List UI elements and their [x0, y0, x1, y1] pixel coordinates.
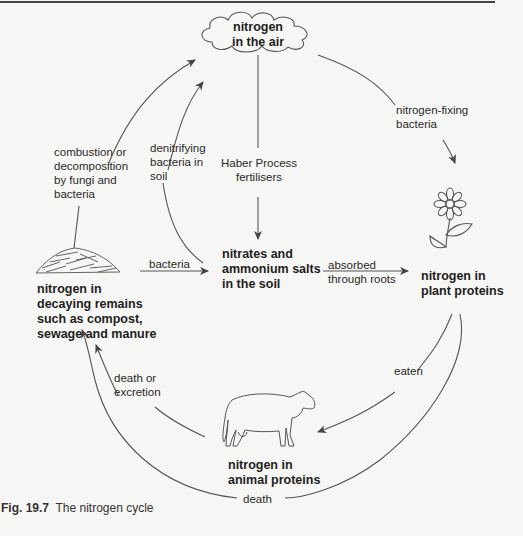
edge-absorbed-label: absorbed through roots [328, 258, 396, 286]
edge-fixing-label: nitrogen-fixing bacteria [396, 103, 468, 131]
edge-label-line: denitrifying [150, 141, 206, 155]
edge-label-line: fertilisers [218, 170, 300, 184]
edge-combustion-label: combustion or decomposition by fungi and… [54, 145, 128, 201]
edge-label-line: excretion [114, 385, 161, 399]
node-line: in the soil [222, 277, 321, 292]
edge-label-line: by fungi and [54, 173, 128, 187]
edge-label-line: Haber Process [218, 156, 300, 170]
edge-label-line: through roots [328, 272, 396, 286]
edge-label-line: combustion or [54, 145, 128, 159]
node-decaying-remains: nitrogen in decaying remains such as com… [37, 282, 157, 342]
edge-haber-label: Haber Process fertilisers [218, 156, 300, 184]
cow-icon [223, 391, 315, 446]
flower-icon [430, 188, 472, 248]
node-line: nitrogen in [421, 269, 504, 284]
node-animal: nitrogen in animal proteins [228, 458, 320, 488]
edge-label-line: bacteria [54, 187, 128, 201]
edge-denitrifying-label: denitrifying bacteria in soil [150, 141, 206, 183]
figure-caption: Fig. 19.7 The nitrogen cycle [1, 501, 154, 515]
node-line: nitrates and [222, 247, 321, 262]
edge-bacteria-label: bacteria [149, 257, 190, 271]
node-line: nitrogen in [37, 282, 157, 297]
figure-caption-text: The nitrogen cycle [55, 501, 153, 515]
edge-label-line: death or [114, 371, 161, 385]
edge-death-excretion-label: death or excretion [114, 371, 161, 399]
node-soil: nitrates and ammonium salts in the soil [222, 247, 321, 292]
figure-number: Fig. 19.7 [1, 501, 49, 515]
node-air-line1: nitrogen [222, 20, 294, 35]
node-line: nitrogen in [228, 458, 320, 473]
edge-label-line: soil [150, 169, 206, 183]
node-line: ammonium salts [222, 262, 321, 277]
node-line: such as compost, [37, 312, 157, 327]
node-line: sewage and manure [37, 327, 157, 342]
node-line: decaying remains [37, 297, 157, 312]
edge-death-label: death [243, 492, 272, 506]
node-line: animal proteins [228, 473, 320, 488]
node-air: nitrogen in the air [222, 20, 294, 50]
edge-label-line: decomposition [54, 159, 128, 173]
edge-label-line: nitrogen-fixing [396, 103, 468, 117]
node-air-line2: in the air [222, 35, 294, 50]
edge-label-line: absorbed [328, 258, 396, 272]
edge-eaten-label: eaten [394, 364, 423, 378]
edge-label-line: bacteria in [150, 155, 206, 169]
node-plant: nitrogen in plant proteins [421, 269, 504, 299]
node-line: plant proteins [421, 284, 504, 299]
compost-heap-icon [36, 248, 120, 273]
edge-label-line: bacteria [396, 117, 468, 131]
